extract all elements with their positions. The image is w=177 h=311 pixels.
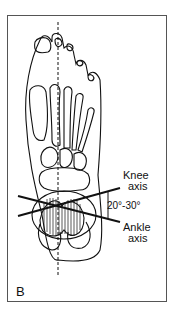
knee-axis-label: Knee axis xyxy=(123,170,149,192)
knee-axis-line xyxy=(18,188,120,216)
panel-label: B xyxy=(16,284,25,299)
ankle-axis-label: Ankle axis xyxy=(123,222,151,244)
angle-label: 20°-30° xyxy=(107,200,141,211)
foot-skeleton-diagram xyxy=(0,0,177,311)
